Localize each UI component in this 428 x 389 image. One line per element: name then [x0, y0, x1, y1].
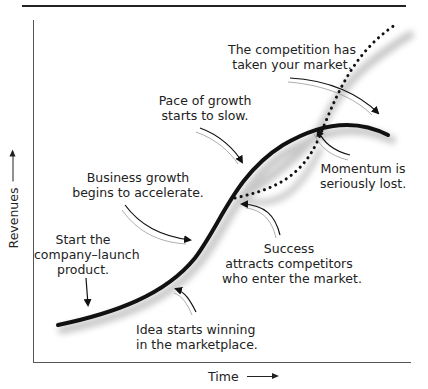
y-axis-label-text: Revenues	[6, 188, 21, 249]
annotation-competition: The competition has taken your market.	[228, 42, 356, 72]
annotation-line: Start the	[34, 232, 132, 247]
arrow-up-icon	[12, 152, 14, 182]
annotation-line: starts to slow.	[150, 108, 260, 123]
arrow-start	[86, 278, 88, 305]
annotation-line: begins to accelerate.	[68, 185, 208, 200]
annotation-success: Success attracts competitors who enter t…	[222, 241, 356, 286]
annotation-idea: Idea starts winning in the marketplace.	[136, 322, 268, 352]
arrow-accelerate	[125, 205, 190, 240]
annotation-line: Business growth	[68, 170, 208, 185]
annotation-line: in the marketplace.	[136, 337, 268, 352]
arrow-right-icon	[247, 376, 277, 378]
annotation-line: product.	[34, 262, 132, 277]
annotation-line: Success	[222, 241, 356, 256]
annotation-line: company–launch	[34, 247, 132, 262]
annotation-accelerate: Business growth begins to accelerate.	[68, 170, 208, 200]
annotation-start: Start the company–launch product.	[34, 232, 132, 277]
arrow-idea	[176, 289, 196, 312]
y-axis-label: Revenues	[6, 120, 20, 280]
annotation-line: Idea starts winning	[136, 322, 268, 337]
annotation-line: attracts competitors	[222, 256, 356, 271]
x-axis-label-text: Time	[208, 369, 239, 384]
annotation-line: Pace of growth	[150, 93, 260, 108]
annotation-line: Momentum is	[318, 161, 408, 176]
annotation-momentum: Momentum is seriously lost.	[318, 161, 408, 191]
x-axis-label: Time	[208, 369, 277, 384]
annotation-line: taken your market.	[228, 57, 356, 72]
annotation-line: who enter the market.	[222, 271, 356, 286]
annotation-slow: Pace of growth starts to slow.	[150, 93, 260, 123]
annotation-line: seriously lost.	[318, 176, 408, 191]
annotation-line: The competition has	[228, 42, 356, 57]
